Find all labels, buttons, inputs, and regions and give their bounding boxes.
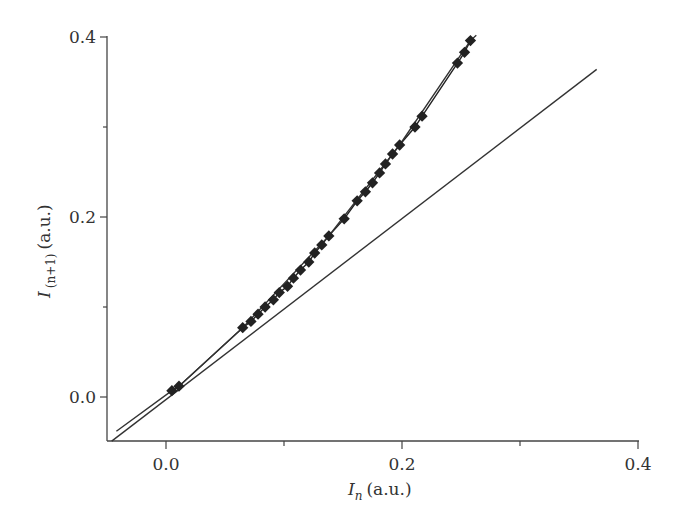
x-tick-label: 0.0 xyxy=(152,454,179,474)
plot-lines xyxy=(112,35,597,441)
data-point-marker xyxy=(282,281,293,292)
data-point-marker xyxy=(452,57,463,68)
x-axis-title: In(a.u.) xyxy=(347,479,412,503)
x-tick-label: 0.2 xyxy=(388,454,415,474)
x-tick-label: 0.4 xyxy=(624,454,651,474)
y-tick-label: 0.0 xyxy=(69,387,96,407)
y-ticks: 0.00.20.4 xyxy=(69,27,107,407)
fit-curve-line xyxy=(116,35,476,431)
measured-return-map-line xyxy=(172,41,471,391)
return-map-chart: 0.00.20.4 0.00.20.4 In(a.u.) I(n+1)(a.u.… xyxy=(0,0,678,526)
x-ticks: 0.00.20.4 xyxy=(152,441,651,474)
y-tick-label: 0.2 xyxy=(69,207,96,227)
y-axis-title: I(n+1)(a.u.) xyxy=(34,204,58,299)
data-markers xyxy=(166,35,476,396)
identity-line-y-x-line xyxy=(112,69,597,441)
data-point-marker xyxy=(416,111,427,122)
y-tick-label: 0.4 xyxy=(69,27,96,47)
